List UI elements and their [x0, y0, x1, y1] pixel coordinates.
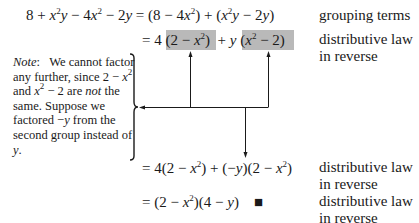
- equation-line-4: = (2 − x2)(4 − y) ■: [142, 193, 263, 211]
- reason-3-line-2: in reverse: [319, 176, 413, 193]
- reason-4: distributive law in reverse: [319, 193, 413, 223]
- reason-3: distributive law in reverse: [319, 159, 413, 193]
- reason-4-line-1: distributive law: [319, 193, 413, 210]
- qed-mark-icon: ■: [254, 194, 263, 210]
- reason-4-line-2: in reverse: [319, 210, 413, 223]
- equation-line-3: = 4(2 − x2) + (−y)(2 − x2): [142, 159, 292, 177]
- reason-3-line-1: distributive law: [319, 159, 413, 176]
